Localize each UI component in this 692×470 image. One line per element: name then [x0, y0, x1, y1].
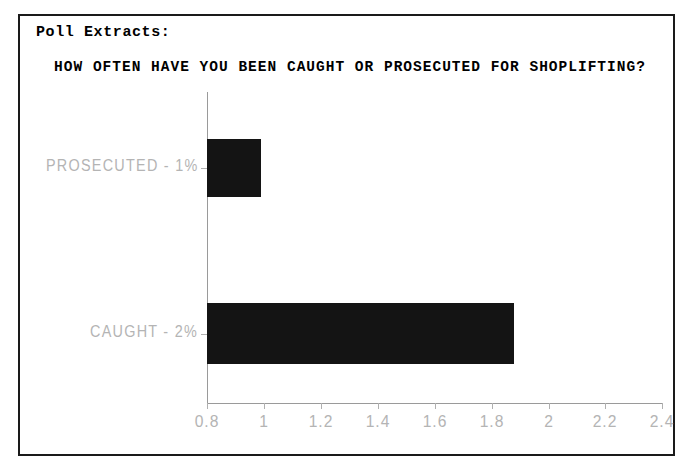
section-heading: Poll Extracts: — [36, 24, 170, 41]
x-axis-tick-mark — [264, 403, 265, 409]
x-axis-tick-mark — [321, 403, 322, 409]
x-axis-tick-mark — [492, 403, 493, 409]
category-tick-mark — [201, 168, 207, 169]
x-axis-tick-label: 1.8 — [480, 412, 505, 432]
bar — [207, 303, 514, 364]
category-label: PROSECUTED - 1% — [45, 157, 198, 175]
x-axis-tick-label: 2 — [544, 412, 554, 432]
x-axis-tick-label: 1.4 — [366, 412, 391, 432]
x-axis-tick-label: 2.4 — [650, 412, 675, 432]
x-axis-tick-mark — [605, 403, 606, 409]
poll-extract-frame: Poll Extracts: HOW OFTEN HAVE YOU BEEN C… — [18, 14, 675, 456]
x-axis-tick-mark — [378, 403, 379, 409]
category-tick-mark — [201, 334, 207, 335]
bar-chart-plot-area: PROSECUTED - 1%CAUGHT - 2% 0.811.21.41.6… — [207, 92, 677, 403]
bar — [207, 139, 261, 197]
x-axis-tick-label: 1 — [259, 412, 269, 432]
x-axis-tick-label: 2.2 — [593, 412, 618, 432]
x-axis-tick-label: 1.6 — [423, 412, 448, 432]
x-axis-tick-mark — [549, 403, 550, 409]
x-axis-tick-mark — [435, 403, 436, 409]
category-label: CAUGHT - 2% — [90, 323, 198, 341]
x-axis-tick-label: 0.8 — [195, 412, 220, 432]
x-axis-tick-label: 1.2 — [309, 412, 334, 432]
chart-title: HOW OFTEN HAVE YOU BEEN CAUGHT OR PROSEC… — [44, 59, 656, 75]
x-axis-tick-mark — [662, 403, 663, 409]
x-axis-tick-mark — [207, 403, 208, 409]
